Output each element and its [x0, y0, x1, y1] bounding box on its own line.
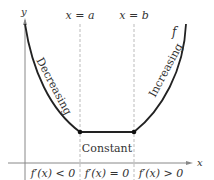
x-axis-label: x: [197, 157, 203, 168]
x-axis-arrow: [186, 161, 193, 165]
derivative-negative-label: f′(x) < 0: [30, 167, 76, 180]
constant-label: Constant: [82, 142, 133, 155]
decreasing-label: Decreasing: [33, 55, 74, 117]
increasing-label: Increasing: [146, 41, 185, 99]
line-a-label: x = a: [66, 9, 95, 22]
point-b: [132, 130, 137, 135]
function-label: f: [171, 25, 179, 39]
y-axis-label: y: [20, 6, 27, 17]
derivative-positive-label: f′(x) > 0: [138, 167, 184, 180]
diagram-canvas: y x x = a x = b f Decreasing Increasing …: [0, 0, 214, 180]
derivative-zero-label: f′(x) = 0: [84, 167, 130, 180]
y-axis-arrow: [23, 18, 27, 25]
line-b-label: x = b: [119, 9, 148, 22]
point-a: [78, 130, 83, 135]
